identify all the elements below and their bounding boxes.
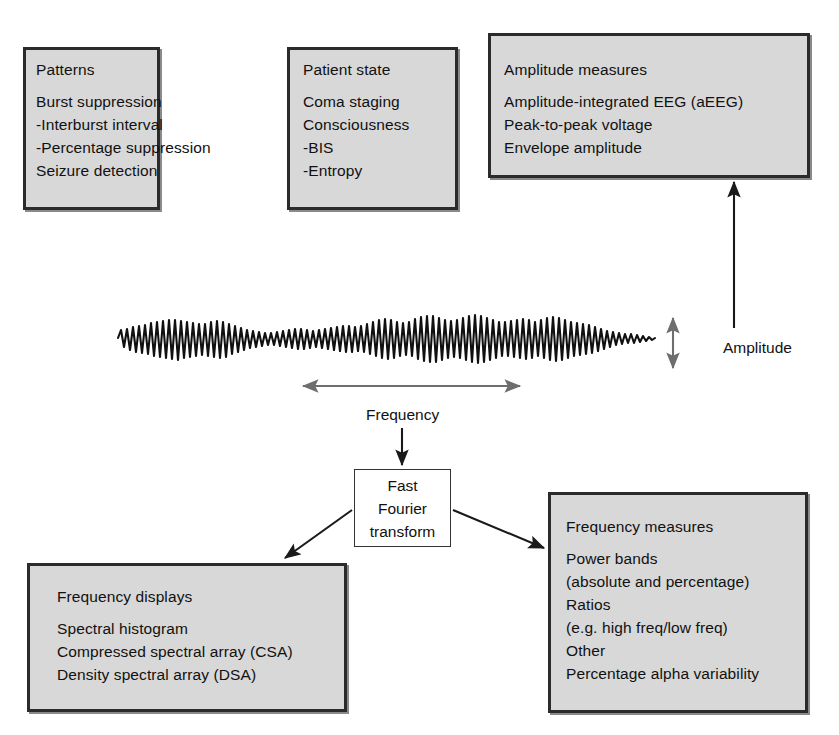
box-frequency-measures-item-2: Ratios	[566, 593, 759, 616]
box-amplitude-measures-heading: Amplitude measures	[504, 58, 743, 81]
diagram-canvas: Patterns Burst suppression -Interburst i…	[0, 0, 839, 735]
box-amplitude-measures-item-2: Envelope amplitude	[504, 136, 743, 159]
box-patterns-item-1: -Interburst interval	[36, 113, 211, 136]
box-frequency-measures-item-0: Power bands	[566, 547, 759, 570]
box-patterns-item-3: Seizure detection	[36, 159, 211, 182]
box-patterns-text: Patterns Burst suppression -Interburst i…	[36, 58, 211, 182]
box-frequency-measures-item-5: Percentage alpha variability	[566, 662, 759, 685]
spacer	[303, 81, 409, 90]
box-patterns-item-0: Burst suppression	[36, 90, 211, 113]
box-amplitude-measures-text: Amplitude measures Amplitude-integrated …	[504, 58, 743, 159]
box-frequency-displays-item-1: Compressed spectral array (CSA)	[57, 640, 293, 663]
box-patient-state-item-3: -Entropy	[303, 159, 409, 182]
label-amplitude: Amplitude	[723, 338, 792, 358]
box-frequency-measures-item-3: (e.g. high freq/low freq)	[566, 616, 759, 639]
fft-line-0: Fast	[387, 474, 417, 497]
box-patterns-item-2: -Percentage suppression	[36, 136, 211, 159]
spacer	[57, 608, 293, 617]
box-patient-state-heading: Patient state	[303, 58, 409, 81]
fft-line-2: transform	[370, 520, 435, 543]
box-amplitude-measures-item-1: Peak-to-peak voltage	[504, 113, 743, 136]
box-frequency-measures-item-4: Other	[566, 639, 759, 662]
arrow-fft-to-frequency-measures	[453, 510, 544, 548]
box-amplitude-measures-item-0: Amplitude-integrated EEG (aEEG)	[504, 90, 743, 113]
arrow-fft-to-frequency-displays	[285, 510, 352, 558]
box-patient-state-item-0: Coma staging	[303, 90, 409, 113]
fft-line-1: Fourier	[378, 497, 427, 520]
box-frequency-displays-item-2: Density spectral array (DSA)	[57, 663, 293, 686]
spacer	[504, 81, 743, 90]
box-frequency-displays-heading: Frequency displays	[57, 585, 293, 608]
eeg-waveform	[118, 315, 655, 363]
label-frequency: Frequency	[366, 405, 439, 425]
box-frequency-displays-text: Frequency displays Spectral histogram Co…	[57, 585, 293, 686]
box-frequency-measures-heading: Frequency measures	[566, 515, 759, 538]
spacer	[566, 538, 759, 547]
box-frequency-measures-text: Frequency measures Power bands (absolute…	[566, 515, 759, 685]
box-frequency-measures-item-1: (absolute and percentage)	[566, 570, 759, 593]
box-patient-state-item-2: -BIS	[303, 136, 409, 159]
box-fast-fourier-transform: Fast Fourier transform	[354, 469, 451, 547]
box-patient-state-item-1: Consciousness	[303, 113, 409, 136]
box-frequency-displays-item-0: Spectral histogram	[57, 617, 293, 640]
box-patient-state-text: Patient state Coma staging Consciousness…	[303, 58, 409, 182]
box-patterns-heading: Patterns	[36, 58, 211, 81]
spacer	[36, 81, 211, 90]
